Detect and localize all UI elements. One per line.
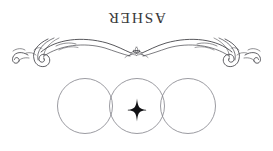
brand-wordmark-text: ASHER: [107, 10, 166, 26]
brand-wordmark: ASHER: [0, 9, 273, 27]
circle-right: [161, 79, 216, 134]
four-pointed-star-icon: [125, 98, 149, 122]
emblem-canvas: ASHER: [0, 0, 273, 151]
calligraphic-flourish-icon: [4, 33, 269, 71]
circle-left: [58, 79, 113, 134]
